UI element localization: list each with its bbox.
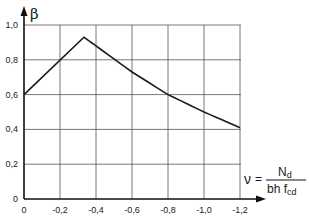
denominator: bh fcd: [267, 182, 297, 197]
grid-lines: [24, 25, 241, 199]
y-axis-label: β: [30, 5, 39, 23]
beta-vs-nu-chart: 00,20,40,60,81,0 0-0,2-0,4-0,6-0,8-1,0-1…: [0, 0, 309, 218]
x-tick-label: -0,6: [124, 205, 140, 215]
y-tick-label: 0,2: [5, 159, 18, 169]
y-tick-label: 0,8: [5, 55, 18, 65]
numerator: Nd: [278, 165, 292, 180]
y-axis-arrow-icon: [21, 6, 28, 16]
x-axis-arrow-icon: [256, 196, 266, 203]
y-tick-label: 1,0: [5, 20, 18, 30]
axes: [21, 6, 267, 203]
x-tick-label: -0,8: [160, 205, 176, 215]
y-tick-label: 0: [13, 194, 18, 204]
x-axis-label-formula: ν = Nd bh fcd: [244, 165, 306, 197]
x-tick-label: -0,4: [88, 205, 104, 215]
x-tick-label: 0: [21, 205, 26, 215]
x-tick-label: -0,2: [52, 205, 68, 215]
y-tick-label: 0,4: [5, 124, 18, 134]
x-tick-label: -1,2: [232, 205, 248, 215]
equals-sign: =: [255, 172, 262, 186]
x-tick-label: -1,0: [196, 205, 212, 215]
nu-symbol: ν: [244, 171, 251, 187]
y-tick-label: 0,6: [5, 90, 18, 100]
y-tick-labels: 00,20,40,60,81,0: [5, 20, 18, 204]
x-tick-labels: 0-0,2-0,4-0,6-0,8-1,0-1,2: [21, 205, 247, 215]
